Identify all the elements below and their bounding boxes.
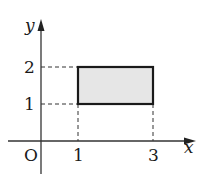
y-axis-label: y	[24, 15, 35, 35]
x-tick-1: 1	[73, 145, 84, 165]
y-axis-arrow-icon	[38, 19, 45, 31]
y-tick-2: 2	[24, 57, 35, 77]
origin-label: O	[24, 145, 38, 165]
x-axis-label: x	[184, 137, 194, 157]
y-tick-1: 1	[24, 94, 35, 114]
coordinate-diagram: y x O 1 3 1 2	[0, 0, 209, 179]
shaded-rectangle	[78, 67, 153, 104]
x-tick-3: 3	[148, 145, 159, 165]
